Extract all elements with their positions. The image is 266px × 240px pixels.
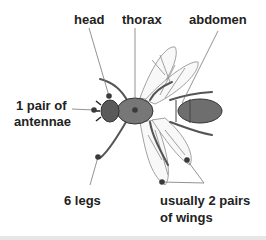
bottom-divider bbox=[0, 236, 266, 240]
label-wings-line2: of wings bbox=[160, 210, 213, 226]
label-abdomen: abdomen bbox=[189, 12, 247, 28]
label-legs: 6 legs bbox=[64, 193, 101, 209]
insect-diagram: head thorax abdomen 1 pair of antennae 6… bbox=[0, 0, 266, 240]
lower-wings bbox=[140, 118, 191, 185]
label-antennae-line1: 1 pair of bbox=[16, 98, 67, 114]
label-head: head bbox=[74, 12, 104, 28]
label-thorax: thorax bbox=[122, 12, 162, 28]
label-wings-line1: usually 2 pairs bbox=[160, 193, 250, 209]
label-antennae-line2: antennae bbox=[14, 114, 71, 130]
